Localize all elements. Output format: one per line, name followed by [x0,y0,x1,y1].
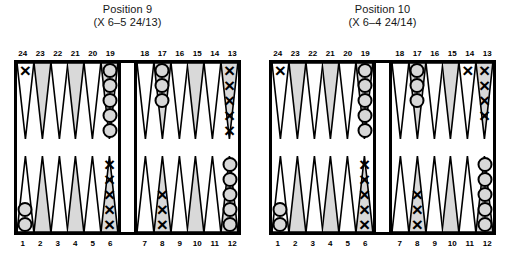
checker-o[interactable] [357,78,372,93]
checker-o[interactable] [155,63,170,78]
checker-o[interactable] [222,202,237,217]
checker-x[interactable] [18,63,33,78]
checker-stack[interactable] [155,63,170,108]
checker-o[interactable] [273,217,288,232]
checker-o[interactable] [18,217,33,232]
point-1[interactable] [272,156,289,232]
point-16[interactable] [426,63,443,139]
checker-o[interactable] [477,217,492,232]
checker-stack[interactable] [410,187,425,232]
checker-o[interactable] [477,187,492,202]
checker-o[interactable] [222,172,237,187]
point-2[interactable] [289,156,306,232]
point-15[interactable] [187,63,204,139]
point-1[interactable] [17,156,34,232]
point-7[interactable] [137,156,154,232]
point-19[interactable] [356,63,373,139]
point-3[interactable] [51,156,68,232]
point-12[interactable] [221,156,238,232]
point-7[interactable] [392,156,409,232]
checker-o[interactable] [222,157,237,172]
checker-x[interactable] [357,157,372,172]
point-21[interactable] [67,63,84,139]
point-23[interactable] [289,63,306,139]
point-22[interactable] [306,63,323,139]
point-5[interactable] [339,156,356,232]
checker-o[interactable] [357,93,372,108]
point-5[interactable] [84,156,101,232]
checker-stack[interactable] [18,202,33,232]
checker-x[interactable] [410,187,425,202]
checker-x[interactable] [273,63,288,78]
checker-stack[interactable] [222,157,237,232]
checker-stack[interactable] [155,187,170,232]
point-4[interactable] [322,156,339,232]
checker-x[interactable] [102,157,117,172]
point-18[interactable] [392,63,409,139]
point-18[interactable] [137,63,154,139]
checker-o[interactable] [477,202,492,217]
checker-stack[interactable] [477,157,492,232]
point-6[interactable] [101,156,118,232]
point-2[interactable] [34,156,51,232]
checker-o[interactable] [102,78,117,93]
checker-x[interactable] [477,108,492,123]
checker-stack[interactable] [477,63,492,123]
checker-stack[interactable] [102,63,117,138]
point-10[interactable] [187,156,204,232]
checker-stack[interactable] [273,63,288,78]
checker-o[interactable] [357,108,372,123]
checker-o[interactable] [477,157,492,172]
point-20[interactable] [339,63,356,139]
checker-o[interactable] [273,202,288,217]
checker-x[interactable] [460,63,475,78]
point-11[interactable] [204,156,221,232]
checker-o[interactable] [102,93,117,108]
point-10[interactable] [442,156,459,232]
checker-stack[interactable] [357,63,372,138]
checker-o[interactable] [102,123,117,138]
checker-o[interactable] [155,78,170,93]
point-22[interactable] [51,63,68,139]
point-14[interactable] [204,63,221,139]
point-9[interactable] [171,156,188,232]
checker-o[interactable] [155,93,170,108]
checker-o[interactable] [357,63,372,78]
checker-o[interactable] [410,93,425,108]
checker-stack[interactable] [102,157,117,232]
point-23[interactable] [34,63,51,139]
point-12[interactable] [476,156,493,232]
checker-stack[interactable] [18,63,33,78]
point-19[interactable] [101,63,118,139]
checker-o[interactable] [102,108,117,123]
checker-o[interactable] [357,123,372,138]
point-6[interactable] [356,156,373,232]
point-3[interactable] [306,156,323,232]
checker-stack[interactable] [273,202,288,232]
checker-o[interactable] [18,202,33,217]
checker-stack[interactable] [410,63,425,108]
point-13[interactable] [221,63,238,139]
checker-x[interactable] [222,123,237,138]
point-14[interactable] [459,63,476,139]
checker-o[interactable] [410,63,425,78]
checker-o[interactable] [102,63,117,78]
point-4[interactable] [67,156,84,232]
checker-o[interactable] [477,172,492,187]
point-8[interactable] [409,156,426,232]
checker-x[interactable] [155,187,170,202]
point-11[interactable] [459,156,476,232]
point-9[interactable] [426,156,443,232]
point-20[interactable] [84,63,101,139]
checker-stack[interactable] [460,63,475,78]
checker-o[interactable] [222,217,237,232]
checker-o[interactable] [410,78,425,93]
checker-stack[interactable] [222,63,237,138]
point-17[interactable] [409,63,426,139]
point-24[interactable] [272,63,289,139]
point-8[interactable] [154,156,171,232]
point-17[interactable] [154,63,171,139]
point-15[interactable] [442,63,459,139]
point-16[interactable] [171,63,188,139]
point-21[interactable] [322,63,339,139]
